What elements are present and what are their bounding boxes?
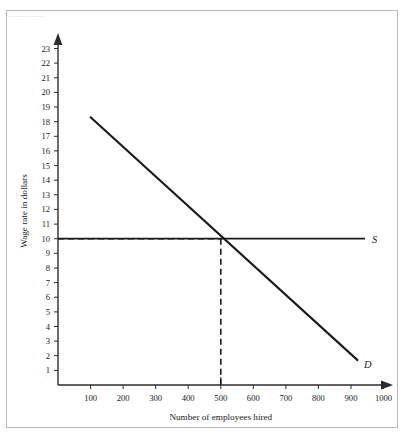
supply-demand-chart: 1 2 3 4 5 6 7 8 9 10 11 12 13 14 15 16 1… <box>7 11 399 429</box>
x-tick-label: 700 <box>279 393 292 403</box>
y-tick-label: 6 <box>46 292 51 302</box>
chart-plot-area: 1 2 3 4 5 6 7 8 9 10 11 12 13 14 15 16 1… <box>7 11 399 429</box>
y-axis-title: Wage rate in dollars <box>19 174 29 248</box>
y-tick-label: 1 <box>46 365 50 375</box>
figure-frame: ................ <box>6 10 398 428</box>
y-axis-tick-labels: 1 2 3 4 5 6 7 8 9 10 11 12 13 14 15 16 1… <box>41 44 50 376</box>
y-tick-label: 12 <box>41 204 50 214</box>
y-tick-label: 18 <box>41 117 50 127</box>
y-tick-label: 19 <box>41 102 50 112</box>
y-tick-label: 15 <box>41 161 50 171</box>
y-tick-label: 20 <box>41 87 50 97</box>
y-tick-label: 11 <box>42 219 50 229</box>
y-tick-label: 16 <box>41 146 50 156</box>
y-tick-label: 14 <box>41 175 50 185</box>
y-tick-label: 3 <box>46 336 50 346</box>
x-tick-label: 400 <box>182 393 195 403</box>
y-tick-label: 2 <box>46 351 50 361</box>
y-axis-arrow-icon <box>54 33 63 45</box>
y-tick-label: 22 <box>41 58 50 68</box>
x-tick-label: 600 <box>247 393 260 403</box>
y-tick-label: 13 <box>41 190 50 200</box>
y-tick-label: 10 <box>41 234 50 244</box>
y-tick-label: 4 <box>46 322 51 332</box>
y-tick-label: 9 <box>46 248 50 258</box>
x-tick-label: 300 <box>149 393 162 403</box>
y-tick-label: 23 <box>41 44 50 54</box>
x-axis-ticks <box>91 377 384 389</box>
x-tick-label: 1000 <box>375 393 392 403</box>
y-tick-label: 8 <box>46 263 50 273</box>
y-tick-label: 7 <box>46 278 51 288</box>
demand-curve-label: D <box>363 359 372 370</box>
x-axis-title: Number of employees hired <box>169 412 272 422</box>
x-tick-label: 800 <box>312 393 325 403</box>
x-tick-label: 200 <box>117 393 130 403</box>
y-tick-label: 5 <box>46 307 50 317</box>
x-axis-tick-labels: 100 200 300 400 500 600 700 800 900 1000 <box>84 393 392 403</box>
x-axis <box>58 381 393 390</box>
x-axis-arrow-icon <box>381 381 393 390</box>
x-tick-label: 500 <box>214 393 227 403</box>
supply-curve-label: S <box>372 234 378 245</box>
y-tick-label: 17 <box>41 131 50 141</box>
x-tick-label: 100 <box>84 393 97 403</box>
y-tick-label: 21 <box>41 73 50 83</box>
x-tick-label: 900 <box>345 393 358 403</box>
